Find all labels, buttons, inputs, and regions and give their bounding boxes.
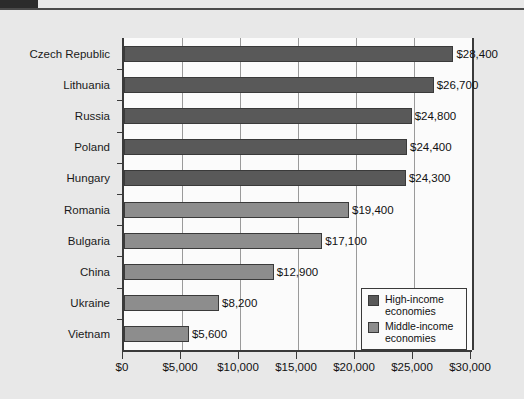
category-label: Lithuania <box>63 77 110 93</box>
bar-value-label: $8,200 <box>219 295 257 311</box>
category-label: Vietnam <box>68 326 110 342</box>
chart-screenshot: Czech RepublicLithuaniaRussiaPolandHunga… <box>0 0 524 399</box>
bar-value-label: $24,300 <box>406 170 451 186</box>
y-axis-tick <box>117 69 124 70</box>
y-axis-tick <box>117 132 124 133</box>
bar-value-label: $26,700 <box>434 77 479 93</box>
bar <box>124 264 274 280</box>
category-label: Ukraine <box>70 295 110 311</box>
x-axis-tick <box>412 352 413 359</box>
x-axis-tick <box>238 352 239 359</box>
legend-item-high-income: High-income economies <box>368 294 460 317</box>
bar-value-label: $5,600 <box>189 326 227 342</box>
bar <box>124 108 412 124</box>
category-label: Romania <box>64 202 110 218</box>
x-axis-label: $0 <box>116 361 129 373</box>
y-axis-tick <box>117 319 124 320</box>
y-axis-tick <box>117 288 124 289</box>
category-label: Russia <box>75 108 110 124</box>
x-axis-tick <box>180 352 181 359</box>
legend-swatch-middle-income-icon <box>368 322 379 333</box>
bar <box>124 326 189 342</box>
x-axis-tick <box>122 352 123 359</box>
value-axis: $0$5,000$10,000$15,000$20,000$25,000$30,… <box>122 352 472 382</box>
category-label: China <box>80 264 110 280</box>
bar-chart: Czech RepublicLithuaniaRussiaPolandHunga… <box>0 12 524 399</box>
category-axis-labels: Czech RepublicLithuaniaRussiaPolandHunga… <box>0 38 116 350</box>
bar <box>124 170 406 186</box>
bar-value-label: $28,400 <box>453 46 498 62</box>
x-axis-label: $20,000 <box>333 361 375 373</box>
bar-value-label: $24,400 <box>407 139 452 155</box>
bar <box>124 202 349 218</box>
bar-value-label: $17,100 <box>322 233 367 249</box>
y-axis-tick <box>117 194 124 195</box>
y-axis-tick <box>117 225 124 226</box>
bar <box>124 139 407 155</box>
legend-label-middle-income: Middle-income economies <box>385 321 460 344</box>
legend-label-high-income: High-income economies <box>385 294 460 317</box>
y-axis-tick <box>117 163 124 164</box>
bar <box>124 77 434 93</box>
category-label: Hungary <box>67 170 110 186</box>
bar <box>124 233 322 249</box>
bar <box>124 46 453 62</box>
x-axis-label: $10,000 <box>217 361 259 373</box>
y-axis-tick <box>117 100 124 101</box>
legend-swatch-high-income-icon <box>368 295 379 306</box>
bar-value-label: $24,800 <box>412 108 457 124</box>
x-axis-tick <box>470 352 471 359</box>
legend-item-middle-income: Middle-income economies <box>368 321 460 344</box>
x-axis-label: $15,000 <box>275 361 317 373</box>
top-divider-rule <box>0 8 524 10</box>
x-axis-tick <box>296 352 297 359</box>
bar <box>124 295 219 311</box>
x-axis-label: $5,000 <box>162 361 197 373</box>
category-label: Czech Republic <box>29 46 110 62</box>
category-label: Bulgaria <box>68 233 110 249</box>
bar-value-label: $12,900 <box>274 264 319 280</box>
x-axis-tick <box>354 352 355 359</box>
x-axis-label: $25,000 <box>391 361 433 373</box>
y-axis-tick <box>117 256 124 257</box>
chart-legend: High-income economies Middle-income econ… <box>361 288 467 350</box>
bar-value-label: $19,400 <box>349 202 394 218</box>
category-label: Poland <box>74 139 110 155</box>
x-axis-label: $30,000 <box>449 361 491 373</box>
